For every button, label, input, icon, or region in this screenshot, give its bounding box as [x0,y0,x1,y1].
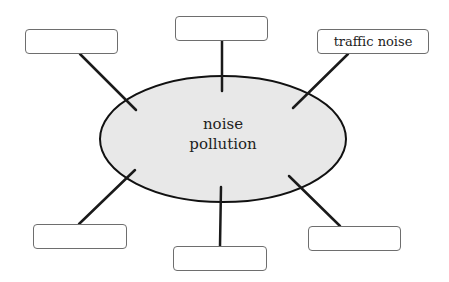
center-label-line1: noise [173,114,273,134]
connector-bottom-left [79,170,135,224]
box-bottom-left[interactable] [33,224,127,249]
box-bottom-right[interactable] [308,226,401,251]
box-top-left[interactable] [25,29,118,54]
connector-top-left [80,54,136,110]
box-top[interactable] [175,16,268,41]
connector-bottom [220,187,221,246]
box-top-right[interactable]: traffic noise [317,29,429,54]
center-label-line2: pollution [173,134,273,154]
box-bottom[interactable] [173,246,267,271]
connector-bottom-right [289,176,340,226]
center-label: noise pollution [173,114,273,154]
